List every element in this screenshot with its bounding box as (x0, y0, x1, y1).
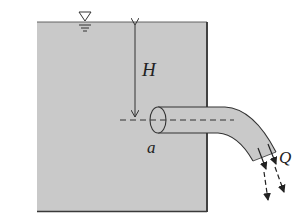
area-label: a (147, 138, 156, 157)
head-label: H (141, 59, 157, 80)
flow-arrow-icon (275, 167, 284, 192)
flow-arrow-icon (264, 172, 268, 200)
discharge-label: Q (279, 148, 291, 167)
tank-discharge-diagram: H a Q (0, 0, 300, 217)
